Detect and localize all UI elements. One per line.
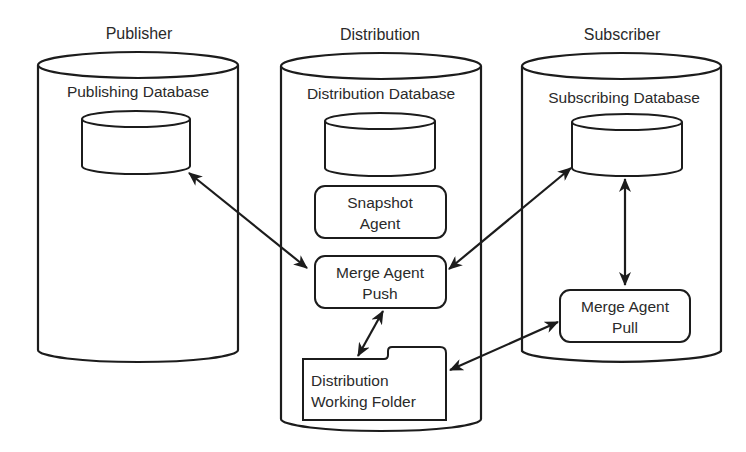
publisher-title: Publisher — [106, 25, 173, 42]
distribution-database-label: Distribution Database — [307, 85, 455, 102]
replication-diagram: Publisher Publishing Database Distributi… — [0, 0, 746, 452]
snapshot-agent-label-line1: Snapshot — [347, 194, 413, 211]
distribution-title: Distribution — [340, 26, 420, 43]
publishing-database-label: Publishing Database — [67, 83, 209, 100]
subscribing-database-label: Subscribing Database — [548, 89, 700, 106]
snapshot-agent-label-line2: Agent — [360, 215, 401, 232]
subscribing-database-icon — [572, 114, 682, 176]
distribution-database-icon — [325, 113, 435, 176]
merge-agent-pull-label-line1: Merge Agent — [581, 298, 670, 315]
merge-agent-pull-label-line2: Pull — [612, 319, 638, 336]
subscriber-section: Subscriber Subscribing Database Merge Ag… — [522, 26, 721, 362]
working-folder-label-line2: Working Folder — [311, 393, 416, 410]
working-folder-label-line1: Distribution — [311, 372, 389, 389]
publisher-section: Publisher Publishing Database — [38, 25, 238, 362]
subscriber-title: Subscriber — [584, 26, 661, 43]
merge-agent-push-box: Merge Agent Push — [315, 256, 446, 308]
merge-agent-pull-box: Merge Agent Pull — [560, 290, 690, 342]
snapshot-agent-box: Snapshot Agent — [315, 186, 446, 238]
publishing-database-icon — [82, 111, 190, 174]
merge-agent-push-label-line2: Push — [362, 285, 397, 302]
merge-agent-push-label-line1: Merge Agent — [336, 264, 425, 281]
